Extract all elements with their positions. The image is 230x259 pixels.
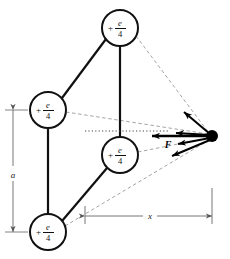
- test-point-dot: [206, 130, 218, 142]
- dashed-line-top-to-point: [136, 36, 209, 133]
- dimension-a: a: [5, 110, 28, 232]
- dimension-x: x: [85, 188, 212, 224]
- force-diagram-figure: + e 4 + e 4 + e 4 + e 4: [0, 0, 230, 259]
- diagram-canvas: + e 4 + e 4 + e 4 + e 4: [0, 0, 230, 259]
- charge-sign: +: [108, 23, 113, 33]
- charge-numerator: e: [118, 145, 122, 155]
- charge-left: + e 4: [30, 92, 66, 128]
- component-vector-group: [172, 112, 210, 156]
- dimension-x-label: x: [147, 211, 152, 221]
- dimension-a-label: a: [11, 170, 16, 180]
- charge-bottom: + e 4: [30, 214, 66, 250]
- charge-numerator: e: [46, 222, 50, 232]
- charge-numerator: e: [118, 18, 122, 28]
- charge-sign: +: [36, 105, 41, 115]
- charge-top: + e 4: [102, 10, 138, 46]
- edge-middle-to-bottom: [62, 168, 107, 221]
- charge-sign: +: [36, 227, 41, 237]
- charge-sign: +: [108, 150, 113, 160]
- charge-middle: + e 4: [102, 137, 138, 173]
- edge-top-to-left: [62, 39, 106, 98]
- structure-edge-group: [48, 39, 120, 221]
- force-label-F: F: [164, 139, 172, 150]
- charge-numerator: e: [46, 100, 50, 110]
